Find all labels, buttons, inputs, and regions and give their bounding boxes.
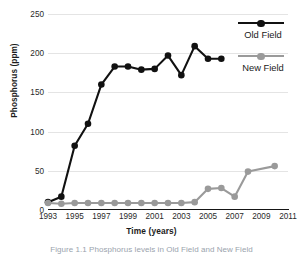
data-point [218, 185, 225, 192]
data-point [191, 199, 198, 206]
data-point [111, 63, 118, 70]
series-line [48, 166, 275, 204]
data-point [125, 63, 132, 70]
y-tick-label: 150 [20, 88, 44, 97]
x-tick-label: 1995 [66, 212, 84, 221]
data-point [178, 72, 185, 79]
legend-swatch [226, 18, 300, 28]
data-point [98, 81, 105, 88]
y-tick-label: 200 [20, 49, 44, 58]
x-tick-label: 2005 [199, 212, 217, 221]
figure: Phosphorus (ppm) 050100150200250 1993199… [0, 0, 303, 257]
figure-caption: Figure 1.1 Phosphorus levels in Old Fiel… [0, 245, 303, 254]
x-tick-label: 2009 [252, 212, 270, 221]
data-point [151, 66, 158, 73]
data-point [191, 43, 198, 50]
data-point [58, 200, 65, 207]
data-point [178, 200, 185, 207]
data-point [85, 200, 92, 207]
legend-item: New Field [226, 51, 300, 73]
x-axis-line [48, 209, 289, 210]
y-tick-label: 100 [20, 127, 44, 136]
series-old-field [45, 43, 225, 206]
x-tick-label: 2007 [226, 212, 244, 221]
data-point [111, 200, 118, 207]
y-tick-label: 50 [20, 166, 44, 175]
x-tick-label: 2011 [279, 212, 297, 221]
line-chart: Phosphorus (ppm) 050100150200250 1993199… [0, 0, 303, 240]
data-point [98, 200, 105, 207]
data-point [218, 55, 225, 62]
x-tick-label: 2003 [172, 212, 190, 221]
data-point [205, 55, 212, 62]
legend-marker-icon [257, 20, 265, 28]
data-point [165, 52, 172, 59]
legend-label: Old Field [226, 29, 300, 40]
series-new-field [45, 163, 278, 207]
y-tick-label: 250 [20, 10, 44, 19]
x-axis-title: Time (years) [0, 226, 303, 236]
data-point [138, 66, 145, 73]
data-point [71, 200, 78, 207]
x-tick-label: 2001 [146, 212, 164, 221]
legend-item: Old Field [226, 18, 300, 40]
legend-label: New Field [226, 62, 300, 73]
data-point [45, 200, 52, 207]
data-point [151, 200, 158, 207]
chart-legend: Old FieldNew Field [226, 18, 300, 80]
data-point [125, 200, 132, 207]
x-tick-label: 1993 [39, 212, 57, 221]
data-point [85, 120, 92, 127]
data-point [138, 200, 145, 207]
legend-swatch [226, 51, 300, 61]
data-point [71, 142, 78, 149]
x-tick-label: 1997 [92, 212, 110, 221]
legend-marker-icon [257, 53, 265, 61]
series-line [48, 46, 221, 202]
y-axis-tick-labels: 050100150200250 [18, 0, 44, 240]
data-point [271, 163, 278, 170]
data-point [165, 200, 172, 207]
data-point [231, 193, 238, 200]
x-tick-label: 1999 [119, 212, 137, 221]
data-point [245, 168, 252, 175]
data-point [58, 193, 65, 200]
data-point [205, 186, 212, 193]
